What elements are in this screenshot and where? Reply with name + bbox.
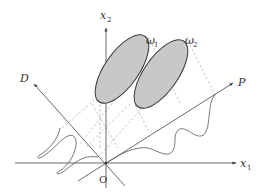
origin-point: [105, 162, 107, 164]
svg-text:2: 2: [193, 41, 197, 49]
omega1-label: ω 1: [146, 34, 158, 49]
omega2-label: ω 2: [185, 34, 197, 49]
p-axis-label: P: [237, 76, 246, 89]
x1-axis-label: x 1: [240, 157, 251, 172]
lda-projection-diagram: x 1 x 2 O P D ω 1 ω 2: [0, 0, 265, 195]
svg-text:1: 1: [247, 164, 251, 172]
d-axis-label: D: [19, 72, 29, 85]
svg-text:2: 2: [107, 16, 111, 24]
svg-text:1: 1: [154, 41, 158, 49]
x2-axis-label: x 2: [100, 9, 111, 24]
d-axis-distribution-curve: [38, 128, 98, 174]
svg-text:x: x: [100, 9, 107, 22]
origin-label: O: [99, 174, 107, 185]
svg-text:x: x: [240, 157, 247, 170]
